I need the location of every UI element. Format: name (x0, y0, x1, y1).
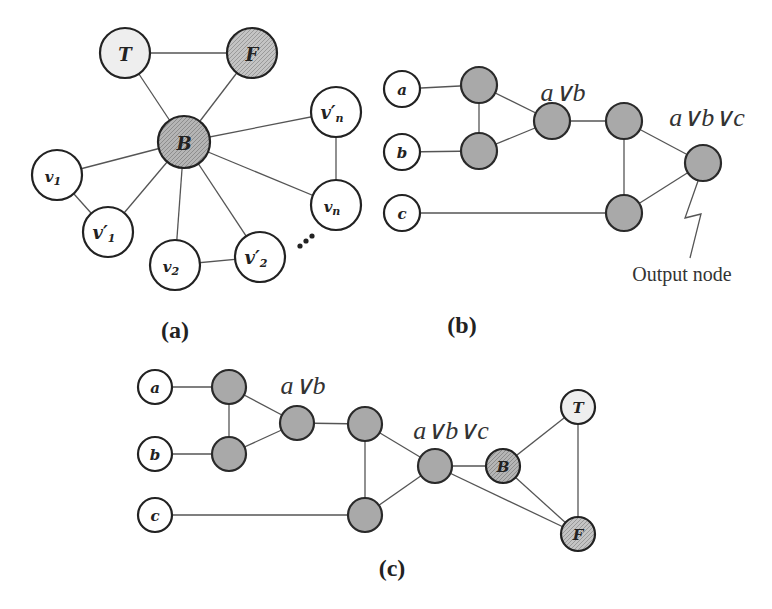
input-b: b (138, 437, 172, 471)
gate-node (348, 498, 382, 532)
gate-node (348, 407, 382, 441)
expr-a-or-b: a∨b (281, 371, 326, 400)
ellipsis-dots (297, 233, 314, 248)
node-false: F (227, 28, 277, 78)
svg-text:F: F (572, 526, 585, 544)
node-v1: v1 (32, 150, 82, 200)
caption-b: (b) (447, 312, 476, 338)
input-b: b (384, 134, 420, 170)
expr-a-or-b-or-c: a∨b∨c (669, 103, 745, 132)
panel-c: a b c B T F a∨b a∨b∨c (c) (138, 370, 595, 581)
svg-text:a: a (397, 81, 407, 99)
node-v1-prime: v′1 (83, 207, 133, 257)
expr-a-or-b-or-c: a∨b∨c (413, 416, 489, 445)
svg-text:c: c (150, 507, 159, 525)
svg-text:b: b (150, 446, 161, 464)
or-ab-node (534, 103, 570, 139)
svg-text:T: T (572, 399, 585, 417)
svg-text:T: T (118, 44, 133, 65)
input-a: a (138, 370, 172, 404)
node-false: F (561, 517, 595, 551)
node-true: T (561, 390, 595, 424)
node-vn: vn (311, 180, 361, 230)
output-node (685, 145, 721, 181)
svg-text:F: F (245, 44, 260, 65)
output-node-label: Output node (632, 263, 732, 286)
input-c: c (138, 498, 172, 532)
gate-node (212, 437, 246, 471)
output-pointer (685, 181, 701, 258)
svg-text:B: B (175, 133, 191, 154)
node-base: B (158, 116, 210, 168)
output-node (418, 449, 452, 483)
svg-text:B: B (496, 458, 510, 476)
panel-a: T F B v1 v′1 v2 v′2 vn (32, 28, 361, 343)
svg-text:b: b (397, 144, 408, 162)
svg-text:a: a (150, 379, 160, 397)
node-base: B (486, 449, 520, 483)
node-vn-prime: v′n (311, 87, 361, 137)
node-v2: v2 (150, 240, 200, 290)
gate-node (606, 103, 642, 139)
gate-node (461, 133, 497, 169)
input-a: a (384, 71, 420, 107)
caption-a: (a) (161, 317, 189, 343)
input-c: c (384, 195, 420, 231)
gate-node (461, 67, 497, 103)
gate-node (606, 195, 642, 231)
caption-c: (c) (379, 555, 406, 581)
or-ab-node (280, 406, 314, 440)
node-v2-prime: v′2 (235, 232, 285, 282)
panel-b: a b c a∨b a∨b∨c Output node (b) (384, 67, 745, 338)
svg-text:c: c (397, 205, 406, 223)
figure-canvas: T F B v1 v′1 v2 v′2 vn (0, 0, 772, 609)
expr-a-or-b: a∨b (541, 78, 586, 107)
gate-node (212, 370, 246, 404)
node-true: T (100, 28, 150, 78)
